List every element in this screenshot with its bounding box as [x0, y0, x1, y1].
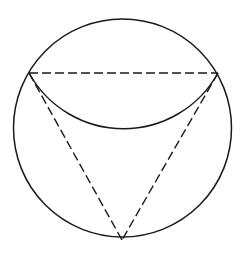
geometry-diagram [0, 0, 244, 253]
inner-arc [29, 73, 218, 129]
dashed-chord-right [122, 73, 218, 240]
dashed-chord-left [29, 73, 122, 240]
